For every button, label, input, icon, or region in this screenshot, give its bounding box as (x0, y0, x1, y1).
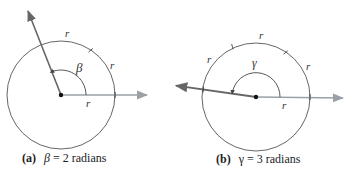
terminal-ray-b (176, 86, 256, 97)
arc-label-b2: r (259, 29, 264, 41)
angle-arc-gamma (232, 73, 280, 97)
terminal-ray-a (28, 11, 61, 95)
caption-b-symbol: γ (238, 152, 245, 166)
arc-label-a2: r (65, 27, 70, 39)
caption-a: (a) β = 2 radians (22, 151, 107, 165)
center-point-b (254, 95, 258, 99)
arc-label-b3: r (207, 53, 212, 65)
radian-diagram: r r r β (a) β = 2 radians r r r r γ (0, 0, 352, 174)
initial-ray-b (256, 97, 343, 98)
angle-label-beta: β (75, 60, 83, 75)
angle-label-gamma: γ (252, 56, 257, 70)
caption-a-text: = 2 radians (53, 151, 107, 165)
radius-label-b: r (282, 99, 287, 111)
figure-a: r r r β (a) β = 2 radians (7, 11, 147, 165)
caption-b-text: = 3 radians (247, 152, 301, 166)
arc-label-a1: r (110, 59, 115, 71)
caption-b: (b) γ = 3 radians (216, 152, 301, 166)
figure-b: r r r r γ (b) γ = 3 radians (176, 29, 343, 166)
caption-a-tag: (a) (22, 151, 36, 165)
arc-label-b1: r (306, 60, 311, 72)
caption-b-tag: (b) (216, 152, 231, 166)
tick-mark-b3 (203, 87, 204, 93)
caption-a-symbol: β (43, 151, 50, 165)
center-point-a (59, 93, 63, 97)
radius-label-a: r (86, 97, 91, 109)
